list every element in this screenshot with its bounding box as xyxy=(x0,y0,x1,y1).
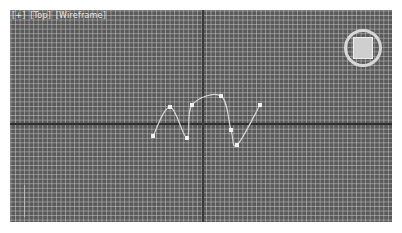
spline-vertices xyxy=(151,94,262,147)
spline-vertex-4[interactable] xyxy=(219,94,223,98)
spline-vertex-2[interactable] xyxy=(185,136,189,140)
spline-vertex-0[interactable] xyxy=(151,134,155,138)
spline-curve[interactable] xyxy=(153,94,260,146)
top-viewport[interactable]: [+] [Top] [Wireframe] xyxy=(10,10,392,222)
spline-vertex-1[interactable] xyxy=(168,105,172,109)
spline-vertex-7[interactable] xyxy=(258,103,262,107)
line-spline[interactable] xyxy=(10,10,392,222)
spline-vertex-6[interactable] xyxy=(235,143,239,147)
spline-vertex-5[interactable] xyxy=(229,128,233,132)
spline-vertex-3[interactable] xyxy=(190,103,194,107)
